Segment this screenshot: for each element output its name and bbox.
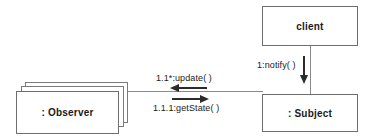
object-box-client[interactable]: client: [262, 6, 358, 46]
object-label-observer: : Observer: [41, 107, 93, 118]
message-label-getstate: 1.1.1:getState( ): [153, 103, 219, 113]
message-label-update: 1.1*:update( ): [156, 73, 212, 83]
message-arrow-getstate-shaft: [172, 98, 201, 100]
message-arrow-update-shaft: [178, 87, 207, 89]
message-label-notify: 1:notify( ): [257, 60, 296, 70]
message-arrow-notify-shaft: [303, 56, 305, 77]
object-label-subject: : Subject: [288, 108, 332, 119]
object-label-client: client: [296, 21, 323, 32]
message-arrow-getstate-head: [200, 95, 209, 103]
link-observer-subject: [119, 91, 263, 92]
link-client-subject: [310, 46, 311, 94]
message-arrow-update-head: [170, 84, 179, 92]
uml-collaboration-diagram: client : Subject : Observer 1:notify( ) …: [0, 0, 374, 140]
multiobject-observer[interactable]: : Observer: [16, 82, 128, 134]
object-box-observer[interactable]: : Observer: [16, 91, 119, 134]
object-box-subject[interactable]: : Subject: [262, 94, 358, 132]
message-arrow-notify-head: [300, 75, 308, 84]
